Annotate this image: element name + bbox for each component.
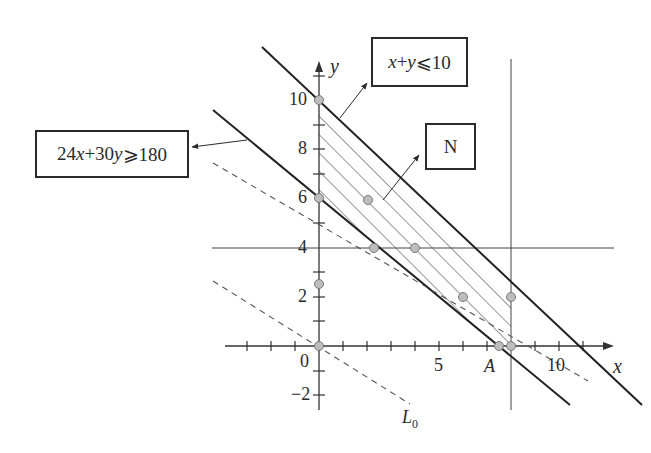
point-2.5-4 [370,244,379,253]
point-0-0 [315,342,324,351]
point-4-4 [411,244,420,253]
origin-label: 0 [300,352,309,370]
x-axis-arrow-icon [603,342,614,350]
constraint-24x-30y-part1: 24 [57,143,76,165]
x-axis-label: x [613,356,622,376]
point-6-2 [459,293,468,302]
feasible-region-N [319,100,511,346]
y-axis-label: y [330,56,339,76]
arrow-to-xy10-box [340,83,367,118]
point-0-6 [315,194,324,203]
constraint-24x-30y-var-x: x [76,143,84,165]
constraint-24x-30y-var-y: y [114,143,122,165]
y-tick-8: 8 [298,139,307,157]
x-tick-10: 10 [547,356,565,374]
point-2-6 [364,196,373,205]
arrow-to-24x30y-box [192,140,247,147]
y-tick-10: 10 [289,90,307,108]
L0-label-sub: 0 [412,417,418,431]
constraint-xy-part3: ⩽10 [416,51,451,74]
line-24x-plus-30y-equals-180 [213,110,570,405]
constraint-xy-var-x: x [388,51,396,73]
point-8-2 [507,293,516,302]
region-N-box: N [425,123,476,170]
point-0-10 [315,96,324,105]
L0-label-main: L [402,407,412,427]
x-tick-5: 5 [434,356,443,374]
constraint-box-24x-30y: 24x+30y⩾180 [35,130,189,178]
y-tick-2: 2 [298,287,307,305]
x-axis [225,341,614,351]
constraint-24x-30y-part2: +30 [84,143,114,165]
point-8-0 [507,342,516,351]
constraint-xy-plus: + [397,51,408,73]
L0-label: L0 [402,408,418,430]
constraint-box-x-plus-y: x+y⩽10 [371,37,468,87]
y-tick-4: 4 [298,238,307,256]
y-axis-arrow-icon [315,61,323,72]
y-tick-6: 6 [298,188,307,206]
constraint-xy-var-y: y [407,51,415,73]
point-A-7.5-0 [495,342,504,351]
y-tick-neg2: −2 [291,385,310,403]
dashed-line-L0-origin [213,281,410,404]
point-A-label: A [484,357,495,375]
constraint-24x-30y-part3: ⩾180 [123,143,168,166]
point-0-2.5 [315,280,324,289]
region-N-label: N [444,136,458,158]
lp-diagram [0,0,651,453]
